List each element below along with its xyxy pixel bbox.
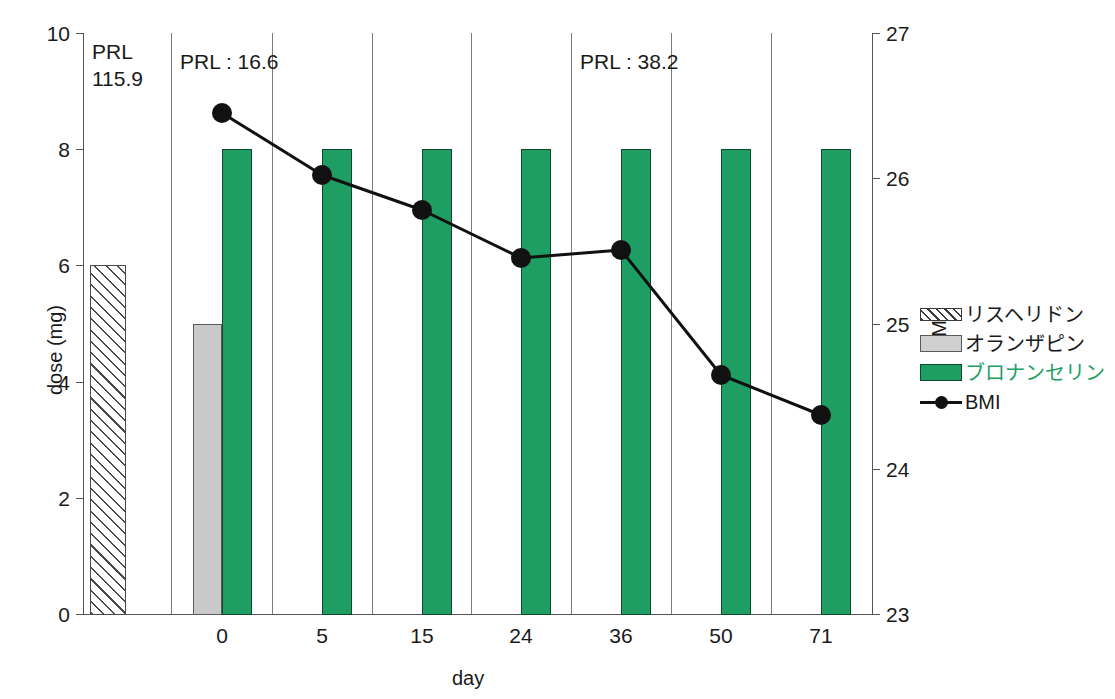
x-axis-tick-label: 24 — [491, 625, 551, 646]
gray-swatch-icon — [920, 335, 962, 352]
y-axis-right-tick-label: 27 — [886, 23, 942, 44]
legend-item-bmi: BMI — [920, 387, 1110, 416]
y-axis-right-tick — [873, 469, 880, 470]
y-axis-left-tick-label: 10 — [14, 23, 70, 44]
y-axis-right-tick — [873, 33, 880, 34]
period-separator — [571, 33, 572, 614]
bar-blonanserin — [521, 149, 551, 615]
legend-item-blonanserin: ブロナンセリン — [920, 358, 1110, 387]
y-axis-right-tick — [873, 324, 880, 325]
period-separator — [671, 33, 672, 614]
y-axis-right-tick — [873, 614, 880, 615]
bar-blonanserin — [621, 149, 651, 615]
y-axis-left-title: dose (mg) — [44, 305, 67, 395]
bar-blonanserin — [721, 149, 751, 615]
y-axis-left-tick — [76, 382, 83, 383]
x-axis-title: day — [452, 667, 484, 690]
legend-item-label: BMI — [965, 392, 1001, 412]
legend: リスヘリドン オランザピン ブロナンセリン BMI — [920, 300, 1110, 416]
period-separator — [471, 33, 472, 614]
x-axis-tick-label: 5 — [292, 625, 352, 646]
y-axis-left-tick — [76, 614, 83, 615]
period-separator — [372, 33, 373, 614]
x-axis-tick-label: 15 — [392, 625, 452, 646]
x-axis-tick-label: 50 — [691, 625, 751, 646]
legend-item-risperidone: リスヘリドン — [920, 300, 1110, 329]
legend-item-label: ブロナンセリン — [965, 363, 1105, 383]
y-axis-left-line — [83, 33, 84, 615]
x-axis-tick-label: 71 — [791, 625, 851, 646]
period-separator — [272, 33, 273, 614]
y-axis-right-tick-label: 26 — [886, 168, 942, 189]
x-axis-tick-label: 36 — [591, 625, 651, 646]
period-separator — [171, 33, 172, 614]
bmi-data-point — [212, 103, 232, 123]
y-axis-left-tick-label: 6 — [14, 255, 70, 276]
period-separator — [771, 33, 772, 614]
y-axis-left-tick — [76, 265, 83, 266]
y-axis-left-tick — [76, 33, 83, 34]
bar-blonanserin — [821, 149, 851, 615]
y-axis-right-tick-label: 23 — [886, 604, 942, 625]
legend-item-label: リスヘリドン — [965, 305, 1084, 325]
y-axis-right-tick — [873, 178, 880, 179]
annotation-prl-day0: PRL : 16.6 — [180, 48, 278, 75]
green-swatch-icon — [920, 364, 962, 381]
x-axis-tick-label: 0 — [192, 625, 252, 646]
legend-item-label: オランザピン — [965, 334, 1085, 354]
y-axis-left-tick — [76, 498, 83, 499]
y-axis-left-tick — [76, 149, 83, 150]
y-axis-left-tick-label: 0 — [14, 604, 70, 625]
annotation-prl-pre: PRL 115.9 — [92, 38, 143, 92]
y-axis-left-tick-label: 8 — [14, 139, 70, 160]
bar-blonanserin — [222, 149, 252, 615]
chart-figure: 0 2 4 6 8 10 23 24 25 26 27 0 5 15 24 36… — [0, 0, 1115, 699]
bar-blonanserin — [422, 149, 452, 615]
bar-risperidone — [90, 265, 126, 615]
bar-blonanserin — [322, 149, 352, 615]
annotation-prl-day36: PRL : 38.2 — [580, 48, 678, 75]
y-axis-left-tick-label: 2 — [14, 488, 70, 509]
legend-item-olanzapine: オランザピン — [920, 329, 1110, 358]
line-marker-swatch-icon — [920, 393, 962, 410]
bar-olanzapine — [193, 324, 222, 615]
y-axis-right-tick-label: 24 — [886, 459, 942, 480]
hatched-swatch-icon — [920, 308, 962, 321]
